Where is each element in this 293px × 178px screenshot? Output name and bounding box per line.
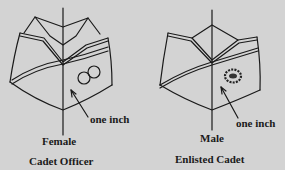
gender-label-female: Female bbox=[42, 135, 76, 147]
wreath-emblem-icon bbox=[225, 70, 241, 83]
role-label-male: Enlisted Cadet bbox=[175, 153, 244, 165]
role-label-female: Cadet Officer bbox=[29, 155, 93, 167]
cap-diagrams bbox=[0, 0, 293, 178]
gender-label-male: Male bbox=[200, 132, 224, 144]
measurement-label-male: one inch bbox=[236, 117, 275, 129]
arrow-right bbox=[221, 87, 238, 118]
arrow-left bbox=[71, 90, 88, 117]
insignia-circle-2 bbox=[88, 66, 100, 78]
measurement-label-female: one inch bbox=[90, 113, 129, 125]
male-garrison-cap bbox=[160, 10, 260, 130]
